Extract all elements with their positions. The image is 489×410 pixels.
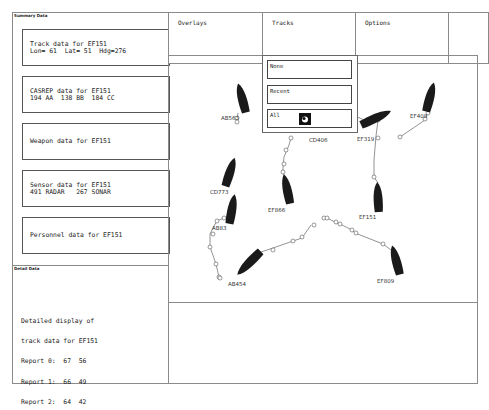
menu-tracks-label: Tracks (272, 19, 294, 26)
pointer-cursor-icon (299, 113, 311, 125)
detail-line: Report 0: 67 56 (21, 358, 98, 365)
summary-data-panel: Summary Data Track data for EF151 Lon= 6… (12, 12, 169, 266)
ship-ef151 (373, 182, 384, 212)
track-data-card[interactable]: Track data for EF151 Lon= 61 Lat= 51 Hdg… (22, 29, 170, 66)
ship-label: EF319 (357, 136, 375, 142)
sensor-data-values: 491 RADAR 267 SONAR (30, 189, 169, 196)
casrep-data-values: 194 AA 138 BB 184 CC (30, 95, 169, 102)
tracks-option-none[interactable]: None (267, 60, 352, 79)
personnel-data-title: Personnel data for EF151 (30, 232, 169, 239)
ship-ef408 (422, 81, 439, 112)
ship-ab454 (234, 248, 264, 278)
weapon-data-title: Weapon data for EF151 (30, 138, 169, 145)
detail-line: Detailed display of (21, 318, 98, 325)
detail-data-panel: Detail Data Detailed display of track da… (12, 265, 169, 384)
tracks-option-recent[interactable]: Recent (267, 85, 352, 104)
ship-label: AB83 (212, 225, 227, 231)
bottom-panel (168, 302, 478, 384)
detail-panel-title: Detail Data (14, 266, 39, 271)
detail-line: track data for EF151 (21, 338, 98, 345)
ship-label: CD773 (210, 189, 229, 195)
ship-ab83 (225, 193, 239, 224)
tracks-dropdown: None Recent All (262, 55, 358, 133)
personnel-data-card[interactable]: Personnel data for EF151 (22, 217, 170, 254)
ship-label: AB454 (228, 281, 247, 287)
ship-label: AB563 (221, 115, 240, 121)
ship-label: EF866 (268, 207, 286, 213)
weapon-data-card[interactable]: Weapon data for EF151 (22, 123, 170, 160)
detail-line: Report 2: 64 42 (21, 399, 98, 406)
ship-label: CD406 (309, 137, 328, 143)
ship-ef866 (279, 173, 294, 204)
ship-ef319 (359, 107, 393, 129)
ship-label: EF809 (377, 278, 395, 284)
tracks-option-all[interactable]: All (267, 109, 352, 128)
ship-cd773 (221, 156, 239, 187)
detail-text: Detailed display of track data for EF151… (21, 304, 98, 410)
menu-options-label: Options (365, 19, 390, 26)
ship-ab563 (234, 82, 251, 113)
summary-panel-title: Summary Data (14, 13, 47, 18)
detail-line: Report 1: 66 49 (21, 379, 98, 386)
track-data-values: Lon= 61 Lat= 51 Hdg=276 (30, 48, 169, 55)
ship-label: EF408 (410, 113, 428, 119)
sensor-data-card[interactable]: Sensor data for EF151 491 RADAR 267 SONA… (22, 170, 170, 207)
casrep-data-card[interactable]: CASREP data for EF151 194 AA 138 BB 184 … (22, 76, 170, 113)
ship-label: EF151 (359, 214, 376, 220)
menu-overlays-label: Overlays (178, 19, 207, 26)
